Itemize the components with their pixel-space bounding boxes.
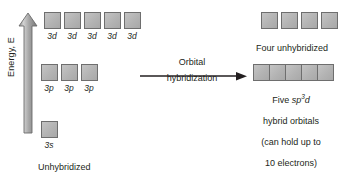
right-sp3d-orbital: sp3d xyxy=(292,95,310,105)
hybridization-arrow-icon xyxy=(140,72,248,82)
orbital-box xyxy=(321,12,338,29)
orbital-box xyxy=(253,64,270,81)
orbital-row-3s xyxy=(41,121,58,138)
orbital-box xyxy=(64,12,81,29)
left-caption: Unhybridized atomic orbitals xyxy=(38,151,148,178)
orbital-labels-3p: 3p 3p 3p xyxy=(39,83,99,93)
orbital-box xyxy=(41,64,58,81)
right-sp3d-caption-line2: hybrid orbitals xyxy=(235,116,347,127)
orbital-box xyxy=(261,12,278,29)
orbital-row-3d xyxy=(44,12,141,29)
right-sp3d-orbital-base: sp xyxy=(292,95,302,105)
orbital-row-3p xyxy=(41,64,98,81)
right-sp3d-caption-line3: (can hold up to xyxy=(235,137,347,148)
orbital-label: 3p xyxy=(39,83,59,93)
orbital-box xyxy=(81,64,98,81)
energy-axis-label: Energy, E xyxy=(6,22,16,92)
orbital-label: 3d xyxy=(122,31,142,41)
right-3d-caption-line1: Four unhybridized xyxy=(238,43,346,54)
orbital-box xyxy=(317,64,334,81)
right-sp3d-caption-line4: 10 electrons) xyxy=(235,158,347,169)
orbital-label: 3d xyxy=(102,31,122,41)
orbital-box xyxy=(269,64,286,81)
orbital-label: 3p xyxy=(59,83,79,93)
orbital-label: 3d xyxy=(42,31,62,41)
right-sp3d-caption-line1: Five sp3d xyxy=(235,95,347,106)
orbital-box xyxy=(285,64,302,81)
orbital-row-sp3d-hybrid xyxy=(253,64,334,81)
left-caption-line1: Unhybridized xyxy=(38,162,148,173)
orbital-box xyxy=(84,12,101,29)
orbital-box xyxy=(301,64,318,81)
right-sp3d-caption: Five sp3d hybrid orbitals (can hold up t… xyxy=(235,84,347,178)
right-sp3d-orbital-end: d xyxy=(305,95,310,105)
orbital-box xyxy=(61,64,78,81)
orbital-label: 3d xyxy=(82,31,102,41)
orbital-box xyxy=(124,12,141,29)
right-sp3d-prefix: Five xyxy=(272,95,292,105)
hybridization-label-line1: Orbital xyxy=(179,57,206,67)
orbital-box xyxy=(41,121,58,138)
orbital-box xyxy=(301,12,318,29)
orbital-label: 3p xyxy=(79,83,99,93)
orbital-labels-3d: 3d 3d 3d 3d 3d xyxy=(42,31,142,41)
orbital-box xyxy=(104,12,121,29)
orbital-label: 3d xyxy=(62,31,82,41)
orbital-hybridization-diagram: Energy, E 3d 3d 3d 3d 3d 3p 3p 3p 3s Unh… xyxy=(0,0,350,178)
orbital-row-unhybridized-3d xyxy=(261,12,338,29)
energy-axis-arrow xyxy=(17,12,39,134)
orbital-box xyxy=(44,12,61,29)
orbital-box xyxy=(281,12,298,29)
orbital-label-3s: 3s xyxy=(39,140,59,150)
